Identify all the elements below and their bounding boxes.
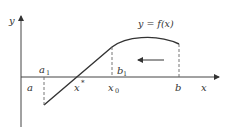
- label-x-star: x: [74, 82, 80, 93]
- label-a1-sub: 1: [46, 69, 50, 77]
- function-title: y = f(x): [137, 18, 174, 29]
- label-b1-sub: 1: [123, 70, 127, 78]
- label-x0: x: [108, 82, 114, 93]
- label-x0-sub: 0: [115, 87, 119, 95]
- label-b: b: [175, 82, 181, 93]
- function-curve: [44, 37, 179, 105]
- label-a: a: [27, 82, 33, 93]
- y-axis-label: y: [8, 15, 15, 26]
- label-x-star-sup: *: [81, 79, 85, 87]
- x-axis-label: x: [201, 82, 207, 93]
- function-diagram: y x y = f(x) a a 1 x * x 0 b 1 b: [0, 0, 230, 134]
- label-a1: a: [39, 64, 45, 75]
